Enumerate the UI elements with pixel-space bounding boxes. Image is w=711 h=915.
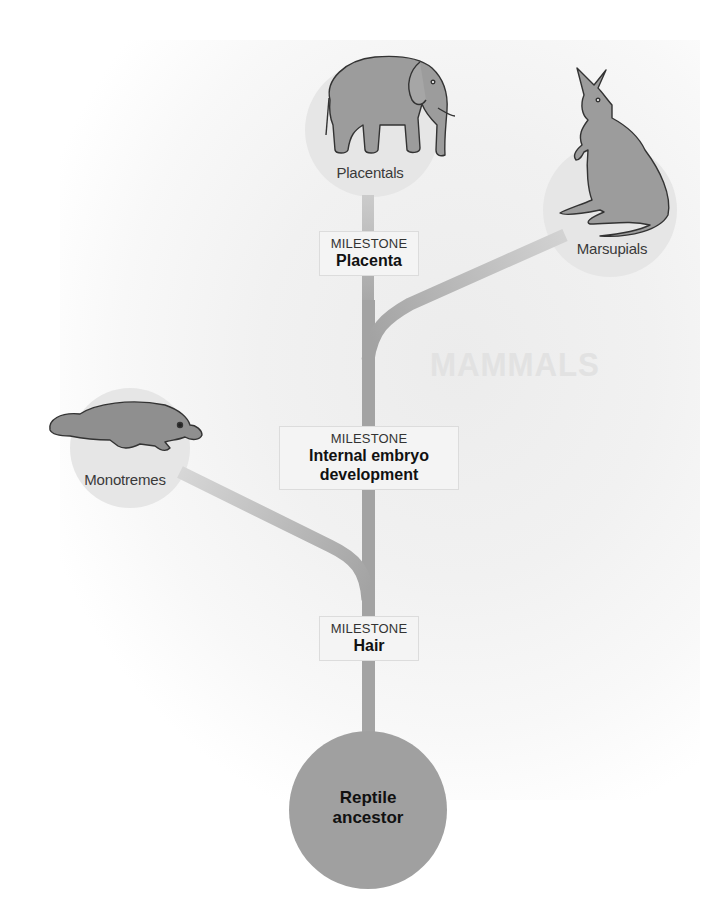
milestone-title: Hair bbox=[328, 636, 410, 655]
milestone-kicker: MILESTONE bbox=[328, 236, 410, 251]
milestone-placenta: MILESTONE Placenta bbox=[319, 231, 419, 276]
placentals-label: Placentals bbox=[336, 164, 403, 181]
milestone-title-line2: development bbox=[288, 465, 450, 484]
milestone-kicker: MILESTONE bbox=[328, 621, 410, 636]
root-label-line1: Reptile bbox=[308, 788, 428, 808]
kangaroo-icon bbox=[560, 68, 669, 236]
milestone-internal-embryo-development: MILESTONE Internal embryo development bbox=[279, 426, 459, 490]
mammals-group-label: MAMMALS bbox=[430, 345, 600, 384]
milestone-title-line1: Internal embryo bbox=[288, 446, 450, 465]
monotremes-branch bbox=[180, 472, 368, 600]
milestone-title: Placenta bbox=[328, 251, 410, 270]
root-label-line2: ancestor bbox=[308, 808, 428, 828]
milestone-kicker: MILESTONE bbox=[288, 431, 450, 446]
monotremes-label: Monotremes bbox=[84, 471, 165, 488]
milestone-hair: MILESTONE Hair bbox=[319, 616, 419, 661]
marsupials-label: Marsupials bbox=[577, 240, 648, 257]
reptile-ancestor-label: Reptile ancestor bbox=[308, 788, 428, 828]
trunk bbox=[362, 300, 375, 760]
